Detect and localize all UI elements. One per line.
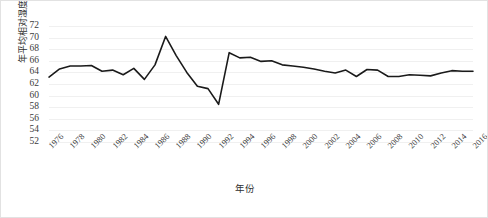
plot-area — [49, 26, 473, 142]
y-tick-label: 52 — [30, 137, 40, 147]
x-axis-tick-labels: 1976197819801982198419861988199019921994… — [49, 144, 473, 178]
y-tick-label: 60 — [30, 91, 40, 101]
y-tick-label: 66 — [30, 56, 40, 66]
x-axis-title: 年份 — [1, 181, 488, 195]
y-tick-label: 68 — [30, 44, 40, 54]
y-tick-label: 62 — [30, 79, 40, 89]
y-tick-label: 56 — [30, 114, 40, 124]
data-line-series — [49, 26, 473, 142]
x-tick-label: 2016 — [471, 132, 488, 150]
y-tick-label: 70 — [30, 33, 40, 43]
y-tick-label: 72 — [30, 21, 40, 31]
y-tick-label: 64 — [30, 68, 40, 78]
y-tick-label: 54 — [30, 126, 40, 136]
y-tick-label: 58 — [30, 102, 40, 112]
y-axis-tick-labels: 5254565860626466687072 — [1, 26, 45, 142]
relative-humidity-line-chart: 年平均相对湿度/% 5254565860626466687072 1976197… — [0, 0, 488, 218]
